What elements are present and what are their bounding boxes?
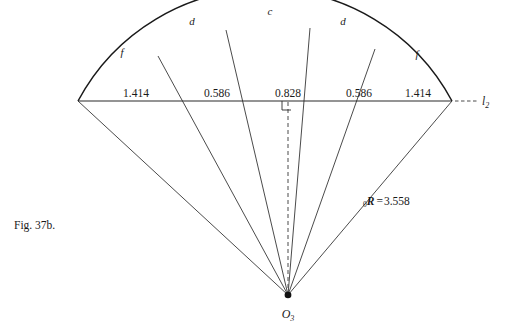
arc-label-f-right: f <box>415 48 420 60</box>
chord-value-2: 0.586 <box>204 87 230 99</box>
axis-label-subscript: 2 <box>485 101 489 110</box>
radius-label: 0R=3.558 <box>363 195 410 209</box>
radial-line-5 <box>288 49 375 295</box>
radial-line-3 <box>226 30 288 295</box>
chord-value-5: 1.414 <box>405 87 431 99</box>
axis-label-l2: l2 <box>482 95 489 110</box>
center-vertex-subscript: 3 <box>289 314 294 323</box>
radius-label-equals: = <box>376 195 383 207</box>
chord-value-3: 0.828 <box>275 87 301 99</box>
center-vertex-symbol: O <box>282 307 291 321</box>
right-angle-marker <box>282 101 291 110</box>
radial-line-4 <box>288 28 310 295</box>
center-vertex-label: O3 <box>282 307 295 323</box>
arc-label-d-right: d <box>340 15 346 27</box>
figure-container: 1.414 0.586 0.828 0.586 1.414 f d c d f … <box>0 0 506 326</box>
sector-diagram: 1.414 0.586 0.828 0.586 1.414 f d c d f … <box>0 0 506 326</box>
figure-caption: Fig. 37b. <box>14 219 55 232</box>
radial-line-1 <box>78 101 288 295</box>
chord-value-1: 1.414 <box>123 87 149 99</box>
radius-label-value: 3.558 <box>384 195 410 207</box>
arc-label-f-left: f <box>120 46 125 58</box>
apex-dot <box>285 292 292 298</box>
chord-value-4: 0.586 <box>346 87 372 99</box>
sector-arc <box>78 0 452 101</box>
radius-label-symbol: R <box>366 195 375 207</box>
arc-label-d-left: d <box>189 15 195 27</box>
arc-label-c-center: c <box>268 5 273 17</box>
